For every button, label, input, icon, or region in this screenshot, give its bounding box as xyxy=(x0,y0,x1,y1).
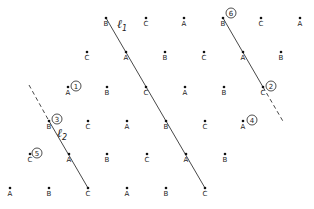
point-dot xyxy=(106,153,109,156)
point-dot xyxy=(145,86,148,89)
lattice-point: A xyxy=(125,120,130,131)
circled-number-5: 5 xyxy=(32,148,42,158)
point-dot xyxy=(222,17,225,20)
point-dot xyxy=(86,51,89,54)
points-layer: BCABCACABCABABCABCBCABCACABCABABCABC xyxy=(8,17,303,198)
line-label-subscript: 1 xyxy=(122,24,127,33)
point-label: B xyxy=(222,89,227,97)
point-dot xyxy=(260,17,263,20)
lattice-point: C xyxy=(261,86,266,97)
point-label: A xyxy=(8,190,13,198)
lattice-point: A xyxy=(183,86,188,97)
lattice-point: C xyxy=(202,51,207,62)
point-dot xyxy=(126,120,129,123)
point-label: A xyxy=(124,54,129,62)
lattice-point: C xyxy=(203,120,208,131)
lattice-point: B xyxy=(47,120,52,131)
point-label: A xyxy=(298,20,303,28)
point-label: C xyxy=(144,20,149,28)
point-dot xyxy=(87,120,90,123)
lattice-point: C xyxy=(144,86,149,97)
point-dot xyxy=(262,86,265,89)
point-label: C xyxy=(86,123,91,131)
point-dot xyxy=(204,120,207,123)
point-dot xyxy=(280,51,283,54)
point-dot xyxy=(242,51,245,54)
circled-number-1: 1 xyxy=(71,81,81,91)
circled-numbers-layer: 123456 xyxy=(32,8,276,158)
point-dot xyxy=(183,17,186,20)
point-dot xyxy=(146,153,149,156)
point-dot xyxy=(204,187,207,190)
point-label: A xyxy=(67,156,72,164)
point-label: B xyxy=(105,156,110,164)
point-label: C xyxy=(28,156,33,164)
circled-number-text: 6 xyxy=(229,10,234,18)
lattice-point: C xyxy=(203,187,208,198)
circled-number-text: 4 xyxy=(250,117,255,125)
point-dot xyxy=(223,86,226,89)
point-dot xyxy=(165,120,168,123)
point-dot xyxy=(125,51,128,54)
lattice-point: B xyxy=(279,51,284,62)
point-label: A xyxy=(241,123,246,131)
point-dot xyxy=(48,120,51,123)
line-label-l1: ℓ1 xyxy=(117,17,127,33)
point-label: A xyxy=(66,89,71,97)
point-dot xyxy=(242,120,245,123)
point-label: C xyxy=(259,20,264,28)
point-dot xyxy=(68,153,71,156)
lattice-point: A xyxy=(298,17,303,28)
circled-number-text: 3 xyxy=(55,116,59,124)
lattice-point: A xyxy=(124,51,129,62)
point-label: B xyxy=(47,190,52,198)
line-l1 xyxy=(106,18,205,188)
point-label: A xyxy=(182,20,187,28)
point-label: B xyxy=(279,54,284,62)
point-label: A xyxy=(125,123,130,131)
point-label: A xyxy=(125,190,130,198)
point-dot xyxy=(299,17,302,20)
point-dot xyxy=(29,153,32,156)
circled-number-2: 2 xyxy=(266,81,276,91)
point-label: B xyxy=(223,156,228,164)
lattice-point: A xyxy=(125,187,130,198)
point-label: C xyxy=(144,89,149,97)
lattice-point: B xyxy=(47,187,52,198)
point-label: A xyxy=(183,89,188,97)
point-label: A xyxy=(241,54,246,62)
point-dot xyxy=(48,187,51,190)
lattice-point: C xyxy=(259,17,264,28)
lattice-point: B xyxy=(105,153,110,164)
lattice-point: A xyxy=(67,153,72,164)
point-dot xyxy=(224,153,227,156)
lattice-point: C xyxy=(145,153,150,164)
point-label: B xyxy=(164,190,169,198)
circled-number-text: 1 xyxy=(74,83,78,91)
line-label-subscript: 2 xyxy=(62,133,67,142)
lattice-point: C xyxy=(85,51,90,62)
lattice-point: A xyxy=(241,51,246,62)
point-label: B xyxy=(105,89,110,97)
lattice-point: B xyxy=(104,17,109,28)
point-label: A xyxy=(184,156,189,164)
lattice-point: C xyxy=(86,120,91,131)
circled-number-3: 3 xyxy=(52,114,62,124)
point-label: C xyxy=(261,89,266,97)
point-dot xyxy=(164,51,167,54)
lattice-point: A xyxy=(184,153,189,164)
point-label: B xyxy=(164,123,169,131)
point-label: B xyxy=(163,54,168,62)
point-dot xyxy=(105,17,108,20)
point-dot xyxy=(203,51,206,54)
lattice-point: B xyxy=(223,153,228,164)
point-label: C xyxy=(203,190,208,198)
point-dot xyxy=(106,86,109,89)
lattice-point: B xyxy=(222,86,227,97)
lattice-diagram: BCABCACABCABABCABCBCABCACABCABABCABC 123… xyxy=(0,0,314,209)
circled-number-4: 4 xyxy=(247,115,257,125)
line-l2-dashed xyxy=(29,85,49,121)
point-dot xyxy=(67,86,70,89)
point-label: C xyxy=(85,54,90,62)
lattice-point: A xyxy=(66,86,71,97)
